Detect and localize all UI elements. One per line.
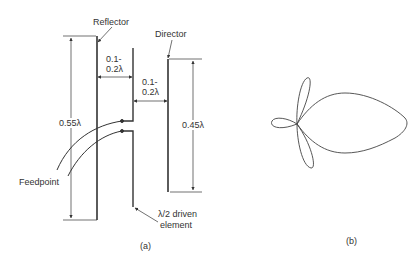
main-lobe [297, 93, 407, 153]
director-label: Director [155, 29, 187, 39]
back-lobe [272, 118, 297, 128]
feed-line-outer [57, 121, 122, 170]
feed-line-inner [68, 131, 122, 176]
driven-element-label-line1: λ/2 driven [158, 209, 197, 219]
driven-element-top [122, 48, 133, 121]
driven-element-bottom [122, 131, 133, 207]
spacing-1-label-line2: 0.2λ [106, 64, 123, 74]
reflector-leader [98, 27, 112, 42]
driven-element-label-line2: element [160, 220, 192, 230]
spacing-2-label-line2: 0.2λ [142, 87, 159, 97]
upper-side-lobe [297, 78, 310, 124]
director-length-label: 0.45λ [182, 120, 204, 130]
yagi-antenna-diagram [0, 0, 419, 259]
caption-a: (a) [140, 241, 151, 251]
spacing-1-label-line1: 0.1- [106, 54, 122, 64]
driven-leader [135, 208, 158, 222]
reflector-label: Reflector [93, 17, 129, 27]
feedpoint-label: Feedpoint [19, 177, 59, 187]
caption-b: (b) [346, 236, 357, 246]
director-leader [168, 40, 172, 58]
spacing-2-label-line1: 0.1- [142, 77, 158, 87]
lower-side-lobe [297, 124, 313, 168]
reflector-length-label: 0.55λ [59, 118, 81, 128]
figure-b-radiation-pattern [272, 78, 407, 168]
